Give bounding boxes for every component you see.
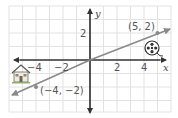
coordinate-plane: −4 −2 2 4 2 x y (5, 2) (−4, −2): [0, 0, 178, 118]
y-axis-label: y: [94, 8, 101, 19]
point-neg4-neg2: [34, 85, 38, 89]
x-tick-4: 4: [141, 62, 147, 73]
film-reel-icon: [145, 41, 163, 56]
x-tick-neg4: −4: [27, 62, 42, 73]
point-5-2: [156, 31, 160, 35]
x-tick-neg2: −2: [54, 62, 69, 73]
y-tick-2: 2: [80, 28, 86, 39]
x-axis-label: x: [163, 62, 169, 73]
point-label-5-2: (5, 2): [128, 21, 155, 32]
point-label-neg4-neg2: (−4, −2): [40, 85, 84, 96]
x-tick-2: 2: [114, 62, 120, 73]
